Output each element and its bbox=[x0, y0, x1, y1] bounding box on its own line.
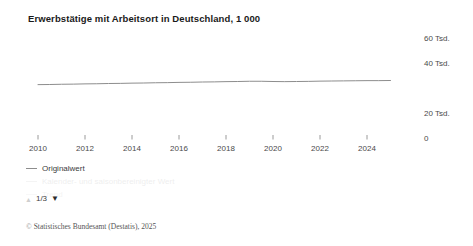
triangle-up-icon[interactable]: ▲ bbox=[25, 196, 32, 203]
legend-item-originalwert[interactable]: Originalwert bbox=[26, 163, 326, 174]
x-axis-label-2014: 2014 bbox=[123, 144, 141, 153]
legend-item-secondary[interactable]: Kalender- und saisonbereinigter Wert bbox=[26, 176, 326, 187]
chart-pager: ▲ 1/3 ▼ bbox=[25, 195, 59, 203]
legend-line-marker-icon bbox=[26, 181, 37, 182]
x-axis-label-2016: 2016 bbox=[170, 144, 188, 153]
x-axis-label-2012: 2012 bbox=[76, 144, 94, 153]
chart-plot-area: 60 Tsd. 40 Tsd. 20 Tsd. 0 2010 2012 2014… bbox=[0, 0, 473, 160]
pager-count-label: 1/3 bbox=[36, 195, 47, 203]
copyright-icon: © bbox=[26, 222, 32, 231]
data-line-originalwert bbox=[38, 81, 391, 85]
chart-svg bbox=[0, 0, 473, 160]
x-axis-label-2022: 2022 bbox=[311, 144, 329, 153]
y-axis-label-20: 20 Tsd. bbox=[424, 109, 450, 118]
x-axis-ticks bbox=[38, 135, 367, 140]
legend-item-tertiary[interactable]: Trend bbox=[26, 189, 326, 200]
x-axis-label-2020: 2020 bbox=[264, 144, 282, 153]
footer-source: ©Statistisches Bundesamt (Destatis), 202… bbox=[26, 222, 156, 231]
x-axis-label-2018: 2018 bbox=[217, 144, 235, 153]
chart-legend: Originalwert Kalender- und saisonbereini… bbox=[26, 163, 326, 202]
y-axis-label-40: 40 Tsd. bbox=[424, 59, 450, 68]
triangle-down-icon[interactable]: ▼ bbox=[51, 195, 59, 203]
x-axis-label-2024: 2024 bbox=[358, 144, 376, 153]
y-axis-label-60: 60 Tsd. bbox=[424, 34, 450, 43]
legend-line-marker-icon bbox=[26, 168, 37, 169]
x-axis-label-2010: 2010 bbox=[29, 144, 47, 153]
y-axis-label-0: 0 bbox=[424, 134, 428, 143]
legend-label-secondary: Kalender- und saisonbereinigter Wert bbox=[42, 177, 174, 186]
footer-source-text: Statistisches Bundesamt (Destatis), 2025 bbox=[34, 222, 157, 231]
legend-label-originalwert: Originalwert bbox=[42, 164, 85, 173]
